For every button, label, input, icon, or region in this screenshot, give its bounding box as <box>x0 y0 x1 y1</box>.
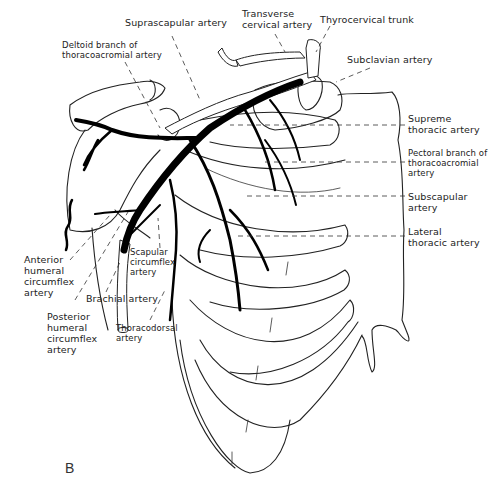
label-thyrocervical-trunk: Thyrocervical trunk <box>320 14 414 25</box>
panel-label: B <box>65 460 74 476</box>
label-thoracodorsal-artery: Thoracodorsal artery <box>116 323 178 343</box>
label-deltoid-branch: Deltoid branch of thoracoacromial artery <box>62 40 162 60</box>
label-transverse-cervical-artery: Transverse cervical artery <box>242 8 312 30</box>
label-scapular-circumflex-artery: Scapular circumflex artery <box>130 247 175 277</box>
label-subscapular-artery: Subscapular artery <box>408 191 468 213</box>
label-lateral-thoracic-artery: Lateral thoracic artery <box>408 226 480 248</box>
label-pectoral-branch: Pectoral branch of thoracoacromial arter… <box>408 148 487 178</box>
label-posterior-humeral-circumflex-artery: Posterior humeral circumflex artery <box>47 311 97 355</box>
rib-cage <box>172 92 409 473</box>
label-suprascapular-artery: Suprascapular artery <box>125 17 227 28</box>
label-supreme-thoracic-artery: Supreme thoracic artery <box>408 113 480 135</box>
label-subclavian-artery: Subclavian artery <box>347 54 432 65</box>
label-brachial-artery: Brachial artery <box>86 293 158 304</box>
label-anterior-humeral-circumflex-artery: Anterior humeral circumflex artery <box>24 254 74 298</box>
